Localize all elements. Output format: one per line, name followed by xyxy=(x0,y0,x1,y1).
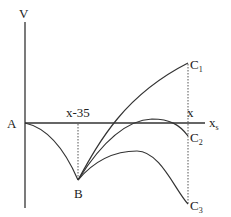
point-c3-label: C3 xyxy=(190,198,203,215)
curve-b-to-c1 xyxy=(78,63,188,180)
point-b-label: B xyxy=(74,186,83,201)
point-a-label: A xyxy=(7,116,17,131)
left-position-label: x-35 xyxy=(66,105,90,120)
point-c2-label: C2 xyxy=(190,130,203,147)
curve-b-to-c3 xyxy=(78,151,188,204)
point-c1-label: C1 xyxy=(190,57,203,74)
vertical-axis-label: V xyxy=(19,6,29,21)
curve-a-to-b xyxy=(25,123,78,180)
horizontal-axis-label: xs xyxy=(209,115,219,132)
curve-b-to-c2 xyxy=(78,119,188,180)
value-diagram: V xs A x-35 x B C1 C2 C3 xyxy=(0,0,231,217)
